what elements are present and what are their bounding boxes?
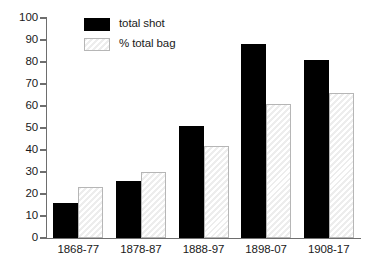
- y-tick-label: 20: [8, 188, 38, 200]
- bar-percent-total-bag-1898-07: [266, 104, 291, 238]
- legend-item: % total bag: [84, 36, 175, 52]
- y-tick-mark: [40, 149, 47, 150]
- x-axis-label: 1898-07: [235, 244, 298, 256]
- legend-label: % total bag: [119, 38, 175, 50]
- y-tick-label: 60: [8, 100, 38, 112]
- bar-chart: 1009080706050403020100 1868-771878-87188…: [0, 0, 376, 266]
- y-tick-label: 10: [8, 210, 38, 222]
- y-tick-label: 80: [8, 56, 38, 68]
- legend-swatch-icon: [84, 38, 110, 51]
- y-tick-mark: [40, 215, 47, 216]
- bar-total-shot-1878-87: [116, 181, 141, 238]
- y-tick-mark: [40, 105, 47, 106]
- y-tick-label: 0: [8, 232, 38, 244]
- bar-total-shot-1898-07: [241, 44, 266, 238]
- bar-percent-total-bag-1908-17: [329, 93, 354, 238]
- y-tick-mark: [40, 61, 47, 62]
- y-tick-mark: [40, 17, 47, 18]
- x-axis-label: 1878-87: [110, 244, 173, 256]
- chart-legend: total shot% total bag: [84, 16, 175, 56]
- x-axis-label: 1868-77: [47, 244, 110, 256]
- legend-item: total shot: [84, 16, 175, 32]
- bar-total-shot-1908-17: [304, 60, 329, 238]
- y-tick-label: 50: [8, 122, 38, 134]
- y-tick-mark: [40, 237, 47, 238]
- bar-percent-total-bag-1878-87: [141, 172, 166, 238]
- legend-swatch-icon: [84, 18, 110, 31]
- bar-percent-total-bag-1888-97: [204, 146, 229, 238]
- bar-percent-total-bag-1868-77: [78, 187, 103, 238]
- y-tick-mark: [40, 83, 47, 84]
- y-tick-mark: [40, 171, 47, 172]
- legend-label: total shot: [119, 18, 165, 30]
- x-axis-label: 1908-17: [297, 244, 360, 256]
- bar-total-shot-1888-97: [179, 126, 204, 238]
- y-tick-label: 40: [8, 144, 38, 156]
- y-tick-mark: [40, 127, 47, 128]
- x-axis-label: 1888-97: [172, 244, 235, 256]
- y-tick-mark: [40, 193, 47, 194]
- y-tick-mark: [40, 39, 47, 40]
- y-tick-label: 70: [8, 78, 38, 90]
- y-tick-label: 100: [8, 12, 38, 24]
- y-tick-label: 90: [8, 34, 38, 46]
- bar-total-shot-1868-77: [53, 203, 78, 238]
- y-tick-label: 30: [8, 166, 38, 178]
